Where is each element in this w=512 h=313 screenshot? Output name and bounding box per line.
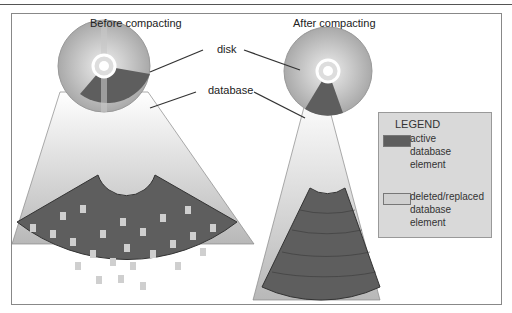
label-database: database [208, 84, 253, 96]
disk-after-icon [284, 27, 372, 116]
disk-before-icon [58, 20, 150, 112]
legend: LEGEND activedatabaseelement deleted/rep… [378, 112, 492, 238]
legend-label-deleted: deleted/replaceddatabaseelement [410, 190, 484, 229]
title-before: Before compacting [90, 17, 182, 29]
label-disk: disk [217, 43, 237, 55]
title-after: After compacting [293, 17, 376, 29]
legend-title: LEGEND [395, 118, 440, 130]
legend-swatch-deleted [383, 193, 411, 205]
legend-swatch-active [383, 135, 411, 147]
legend-label-active: activedatabaseelement [410, 132, 451, 171]
